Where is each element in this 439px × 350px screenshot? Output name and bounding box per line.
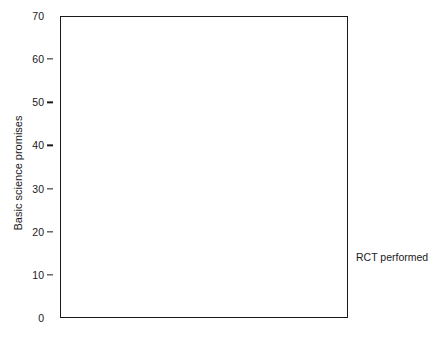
y-tick-label: 30 bbox=[32, 183, 44, 194]
x-axis bbox=[60, 322, 348, 342]
y-tick-label: 40 bbox=[32, 140, 44, 151]
y-tick-mark bbox=[47, 188, 53, 189]
y-tick-label: 60 bbox=[32, 54, 44, 65]
y-tick-mark bbox=[47, 102, 53, 103]
legend-title: RCT performed bbox=[356, 252, 439, 263]
y-tick-mark bbox=[47, 145, 53, 146]
y-axis: 010203040506070 bbox=[0, 0, 60, 350]
bars-container bbox=[61, 17, 347, 317]
legend: RCT performed bbox=[356, 252, 439, 270]
y-tick-label: 0 bbox=[38, 313, 44, 324]
y-tick-mark bbox=[47, 231, 53, 232]
y-tick-label: 10 bbox=[32, 270, 44, 281]
y-tick-mark bbox=[47, 274, 53, 275]
y-tick-label: 70 bbox=[32, 11, 44, 22]
y-tick-label: 50 bbox=[32, 97, 44, 108]
y-tick-mark bbox=[47, 58, 53, 59]
plot-area bbox=[60, 16, 348, 318]
y-tick-label: 20 bbox=[32, 226, 44, 237]
